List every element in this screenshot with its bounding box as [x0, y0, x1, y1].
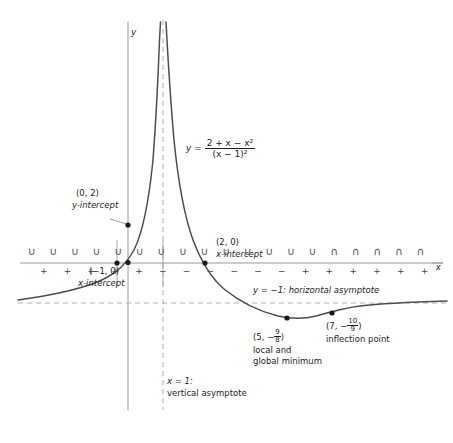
sign-minus: − [254, 266, 262, 276]
point-x-intercept-right-dot [202, 260, 207, 265]
function-equation-label: y = 2 + x − x² (x − 1)² [186, 138, 255, 160]
point-minimum-dot [284, 315, 289, 320]
inflection-point-suffix: ) [358, 321, 361, 331]
concave-up-icon: ∪ [179, 246, 187, 257]
minimum-point-suffix: ) [281, 332, 284, 342]
inflection-fraction: 10 9 [347, 318, 358, 334]
concave-up-icon: ∪ [50, 246, 58, 257]
inflection-caption: inflection point [326, 334, 390, 345]
concave-down-icon: ∩ [395, 246, 403, 257]
sign-minus: − [159, 266, 167, 276]
y-intercept-point-label: (0, 2) [76, 188, 99, 199]
point-x-intercept-left-dot [114, 260, 119, 265]
concave-up-icon: ∪ [136, 246, 144, 257]
sign-plus: + [111, 266, 119, 276]
curve-sketch-figure: y = 2 + x − x² (x − 1)² y x (0, 2) y-int… [0, 0, 453, 443]
concave-up-icon: ∪ [201, 246, 209, 257]
curve-left-branch [18, 22, 161, 300]
equation-equals: = [194, 143, 202, 153]
concave-up-icon: ∪ [93, 246, 101, 257]
sign-plus: + [421, 266, 429, 276]
sign-plus: + [40, 266, 48, 276]
sign-minus: − [278, 266, 286, 276]
concave-up-icon: ∪ [244, 246, 252, 257]
point-y-intercept [125, 260, 130, 265]
sign-plus: + [349, 266, 357, 276]
inflection-fraction-denominator: 9 [347, 326, 358, 333]
concave-up-icon: ∪ [309, 246, 317, 257]
minimum-point-prefix: (5, − [253, 332, 274, 342]
sign-plus: + [88, 266, 96, 276]
point-inflection-dot [329, 310, 334, 315]
concave-up-icon: ∪ [28, 246, 36, 257]
sign-minus: − [207, 266, 215, 276]
leader-y-intercept [110, 219, 126, 224]
concave-up-icon: ∪ [71, 246, 79, 257]
sign-plus: + [64, 266, 72, 276]
y-intercept-caption: y-intercept [72, 200, 118, 211]
concave-down-icon: ∩ [352, 246, 360, 257]
vertical-asymptote-label-line2: vertical asymptote [167, 388, 247, 399]
inflection-point-label: (7, − 10 9 ) [326, 318, 362, 334]
sign-minus: − [230, 266, 238, 276]
y-axis-label: y [131, 27, 136, 37]
concave-down-icon: ∩ [374, 246, 382, 257]
concave-up-icon: ∪ [266, 246, 274, 257]
concave-up-icon: ∪ [222, 246, 230, 257]
concave-down-icon: ∩ [417, 246, 425, 257]
graph-canvas [0, 0, 453, 443]
equation-numerator: 2 + x − x² [205, 138, 256, 149]
horizontal-asymptote-label: y = −1: horizontal asymptote [253, 285, 379, 296]
sign-plus: + [326, 266, 334, 276]
concave-up-icon: ∪ [114, 246, 122, 257]
sign-plus: + [373, 266, 381, 276]
point-y-intercept-dot [125, 222, 130, 227]
equation-denominator: (x − 1)² [205, 149, 256, 159]
minimum-point-label: (5, − 9 8 ) [253, 329, 284, 345]
minimum-caption-line1: local and [253, 345, 292, 356]
concave-up-icon: ∪ [287, 246, 295, 257]
sign-minus: − [183, 266, 191, 276]
sign-plus: + [397, 266, 405, 276]
inflection-point-prefix: (7, − [326, 321, 347, 331]
equation-y: y [186, 143, 191, 153]
sign-plus: + [302, 266, 310, 276]
vertical-asymptote-label-line1: x = 1: [167, 376, 193, 387]
x-axis-label: x [436, 263, 441, 272]
concave-up-icon: ∪ [158, 246, 166, 257]
sign-plus: + [135, 266, 143, 276]
concave-down-icon: ∩ [330, 246, 338, 257]
x-intercept-left-caption: x-intercept [78, 278, 125, 289]
equation-fraction: 2 + x − x² (x − 1)² [205, 138, 256, 160]
minimum-caption-line2: global minimum [253, 356, 322, 367]
